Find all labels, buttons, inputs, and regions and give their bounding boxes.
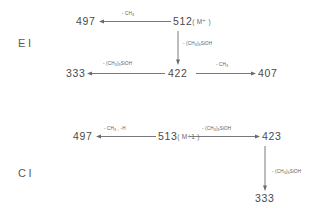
loss-tail: SiOH bbox=[290, 169, 302, 174]
node-ei-497: 497 bbox=[76, 16, 95, 27]
node-ci-513-mass: 513 bbox=[158, 130, 177, 142]
loss-text: - (CH bbox=[202, 126, 214, 131]
section-label-ei: EI bbox=[18, 38, 34, 49]
node-ci-513: 513( M+1 ) bbox=[158, 131, 200, 142]
fragmentation-diagram: EI CI 497 512( M⁺ ) 333 422 407 497 513(… bbox=[0, 0, 311, 215]
edge-label-ei-512-to-497: - CH3 bbox=[122, 12, 134, 18]
node-ei-512-mass: 512 bbox=[173, 15, 192, 27]
node-ei-512: 512( M⁺ ) bbox=[173, 16, 211, 27]
loss-text: - CH bbox=[122, 11, 132, 16]
arrow-layer bbox=[0, 0, 311, 215]
loss-text: - (CH bbox=[272, 169, 284, 174]
arrow-ei-422-to-333 bbox=[87, 72, 165, 76]
edge-label-ei-422-to-407: - CH3 bbox=[216, 63, 228, 69]
arrow-ci-513-to-497 bbox=[96, 135, 156, 139]
edge-label-ci-513-to-497: - CH3 , -H bbox=[104, 127, 126, 133]
loss-tail: SiOH bbox=[201, 41, 213, 46]
arrow-ci-423-to-333 bbox=[263, 146, 267, 191]
edge-label-ci-513-to-423: - (CH3)3SiOH bbox=[202, 127, 231, 133]
arrow-ei-512-to-422 bbox=[176, 31, 180, 65]
arrow-ei-422-to-407 bbox=[196, 72, 256, 76]
section-label-ci: CI bbox=[18, 168, 34, 179]
loss-text: - CH bbox=[104, 126, 114, 131]
node-ei-512-ion-tag: ( M⁺ ) bbox=[192, 18, 211, 25]
loss-text-2: , -H bbox=[116, 126, 125, 131]
node-ei-422: 422 bbox=[168, 68, 187, 79]
loss-sub: 3 bbox=[132, 13, 134, 17]
arrow-ei-512-to-497 bbox=[99, 20, 171, 24]
node-ei-407: 407 bbox=[258, 68, 277, 79]
loss-tail: SiOH bbox=[220, 126, 232, 131]
edge-label-ei-422-to-333: - (CH3)3SiOH bbox=[103, 62, 132, 68]
node-ci-497: 497 bbox=[73, 131, 92, 142]
node-ci-423: 423 bbox=[262, 131, 281, 142]
loss-text: - (CH bbox=[183, 41, 195, 46]
loss-sub: 3 bbox=[226, 64, 228, 68]
loss-text: - CH bbox=[216, 62, 226, 67]
loss-text: - (CH bbox=[103, 61, 115, 66]
node-ei-333: 333 bbox=[66, 68, 85, 79]
node-ci-513-ion-tag: ( M+1 ) bbox=[177, 133, 199, 140]
edge-label-ci-423-to-333: - (CH3)3SiOH bbox=[272, 170, 301, 176]
loss-tail: SiOH bbox=[121, 61, 133, 66]
edge-label-ei-512-to-422: - (CH3)3SiOH bbox=[183, 42, 212, 48]
node-ci-333: 333 bbox=[255, 193, 274, 204]
arrow-ci-513-to-423 bbox=[190, 135, 260, 139]
